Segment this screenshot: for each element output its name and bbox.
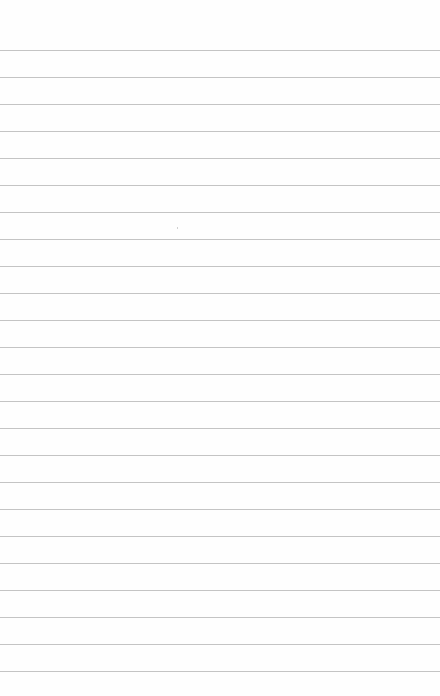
ruled-line (0, 185, 440, 186)
ruled-line (0, 563, 440, 564)
speck-mark (177, 227, 178, 229)
ruled-line (0, 401, 440, 402)
ruled-line (0, 536, 440, 537)
ruled-line (0, 77, 440, 78)
ruled-line (0, 266, 440, 267)
ruled-line (0, 104, 440, 105)
ruled-line (0, 50, 440, 51)
ruled-line (0, 617, 440, 618)
ruled-line (0, 293, 440, 294)
ruled-line (0, 644, 440, 645)
ruled-line (0, 131, 440, 132)
ruled-line (0, 347, 440, 348)
ruled-line (0, 320, 440, 321)
ruled-line (0, 239, 440, 240)
ruled-line (0, 482, 440, 483)
ruled-line (0, 590, 440, 591)
ruled-line (0, 374, 440, 375)
ruled-line (0, 509, 440, 510)
ruled-line (0, 158, 440, 159)
ruled-line (0, 428, 440, 429)
ruled-line (0, 455, 440, 456)
ruled-line (0, 212, 440, 213)
lined-paper-page (0, 0, 440, 696)
ruled-line (0, 671, 440, 672)
